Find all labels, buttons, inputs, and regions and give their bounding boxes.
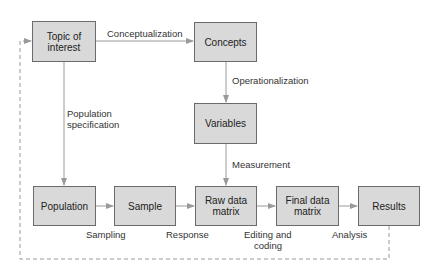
edge-label-conceptualization: Conceptualization [107,28,183,39]
edge-label-population-spec-line1: Population [67,108,112,119]
node-raw-data-matrix: Raw data matrix [195,186,257,226]
edge-label-response: Response [166,229,209,240]
node-label: Population [41,201,88,212]
arrow-feedback-loop [20,41,389,259]
node-label: Topic of interest [47,31,81,53]
edge-label-editing-line2: coding [254,240,282,251]
node-concepts: Concepts [194,22,257,62]
edge-label-sampling: Sampling [86,229,126,240]
node-label: Raw data matrix [205,195,247,217]
edge-label-analysis: Analysis [332,229,367,240]
node-label: Results [372,201,405,212]
node-label: Sample [128,201,162,212]
node-label: Concepts [204,37,246,48]
node-final-data-matrix: Final data matrix [276,186,339,226]
edge-label-editing-line1: Editing and [244,229,292,240]
node-population: Population [33,186,96,226]
node-label: Variables [205,118,246,129]
edge-label-operationalization: Operationalization [232,75,309,86]
edge-label-population-spec-line2: specification [67,119,119,130]
node-results: Results [358,186,420,226]
node-topic-of-interest: Topic of interest [32,21,96,62]
edge-label-measurement: Measurement [232,159,290,170]
node-label: Final data matrix [286,195,330,217]
node-sample: Sample [114,186,176,226]
node-variables: Variables [194,103,257,144]
